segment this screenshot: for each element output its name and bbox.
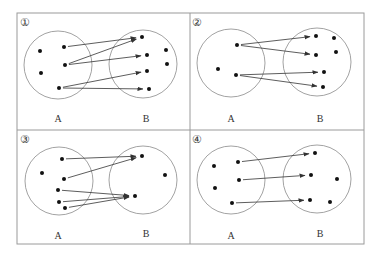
element-dot (62, 45, 66, 49)
element-dot (334, 50, 338, 54)
mapping-arrows (236, 154, 309, 203)
element-dot (140, 154, 144, 158)
element-dot (38, 49, 42, 53)
mapping-arrow (66, 156, 136, 159)
element-dot (60, 157, 64, 161)
set-b: B (283, 28, 351, 124)
set-b-label: B (143, 228, 150, 239)
element-dot (313, 151, 317, 155)
element-dot (314, 34, 318, 38)
mapping-arrow (236, 200, 304, 203)
element-dot (39, 71, 43, 75)
mapping-arrow (242, 154, 309, 162)
element-dot (308, 198, 312, 202)
panel-number: ② (192, 16, 202, 28)
element-dot (236, 160, 240, 164)
element-dot (321, 85, 325, 89)
mapping-arrow (69, 56, 141, 65)
element-dot (40, 171, 44, 175)
panel-4: ④AB (192, 133, 351, 242)
panel-grid-frame (17, 13, 364, 244)
panels: ①AB②AB③AB④AB (20, 16, 351, 242)
element-dot (145, 53, 149, 57)
set-b-label: B (317, 228, 324, 239)
element-dot (235, 43, 239, 47)
panel-number: ① (20, 16, 30, 28)
mapping-arrow (69, 39, 137, 64)
mapping-arrow (240, 76, 317, 87)
set-b-label: B (317, 113, 324, 124)
element-dot (322, 70, 326, 74)
set-a-label: A (54, 230, 62, 241)
set-b: B (109, 146, 177, 239)
element-dot (328, 200, 332, 204)
mapping-arrow (241, 37, 310, 45)
set-b: B (283, 145, 351, 239)
panel-2: ②AB (192, 16, 351, 125)
element-dot (63, 63, 67, 67)
element-dot (140, 35, 144, 39)
set-a-label: A (54, 113, 62, 124)
element-dot (335, 177, 339, 181)
element-dot (145, 69, 149, 73)
element-dot (234, 73, 238, 77)
element-dot (63, 206, 67, 210)
mapping-arrow (68, 38, 136, 47)
set-b-label: B (143, 113, 150, 124)
mapping-arrow (241, 46, 310, 55)
element-dot (165, 62, 169, 66)
element-dot (309, 173, 313, 177)
element-dot (147, 87, 151, 91)
panel-1: ①AB (20, 16, 177, 125)
set-a-label: A (227, 230, 235, 241)
mapping-arrows (240, 37, 318, 87)
mapping-arrows (63, 38, 143, 89)
element-dot (230, 201, 234, 205)
mapping-arrow (243, 175, 305, 179)
element-dot (133, 194, 137, 198)
element-dot (332, 36, 336, 40)
element-dot (56, 188, 60, 192)
set-a-label: A (227, 113, 235, 124)
mapping-diagram-figure: ①AB②AB③AB④AB (0, 0, 376, 257)
element-dot (237, 178, 241, 182)
element-dot (213, 186, 217, 190)
element-dot (163, 173, 167, 177)
element-dot (62, 177, 66, 181)
element-dot (314, 53, 318, 57)
mapping-arrow (62, 190, 129, 195)
panel-3: ③AB (20, 133, 177, 242)
mapping-arrow (63, 72, 141, 87)
panel-number: ③ (20, 133, 30, 145)
element-dot (57, 200, 61, 204)
set-a-circle (197, 29, 265, 97)
element-dot (164, 48, 168, 52)
set-b: B (109, 30, 177, 124)
element-dot (212, 164, 216, 168)
panel-number: ④ (192, 133, 202, 145)
mapping-arrow (240, 72, 318, 75)
mapping-arrows (62, 156, 136, 207)
mapping-arrow (63, 88, 143, 89)
diagram-canvas: ①AB②AB③AB④AB (0, 0, 376, 257)
set-a: A (25, 147, 93, 241)
element-dot (57, 86, 61, 90)
mapping-arrow (68, 158, 136, 178)
element-dot (216, 67, 220, 71)
